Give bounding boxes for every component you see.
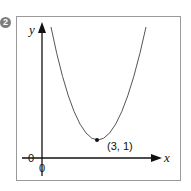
vertex-point [95, 138, 99, 142]
parabola-graph: y x (3, 1) 0 0 [0, 0, 191, 191]
y-axis-label: y [27, 22, 35, 37]
x-axis-arrow-icon [151, 154, 162, 162]
origin-y-label: 0 [39, 162, 45, 174]
vertex-label: (3, 1) [107, 140, 133, 152]
x-axis [22, 154, 162, 162]
x-axis-label: x [163, 150, 170, 165]
origin-x-label: 0 [28, 152, 34, 164]
parabola-curve [51, 27, 146, 140]
y-axis-arrow-icon [38, 22, 46, 33]
y-axis [38, 22, 46, 176]
